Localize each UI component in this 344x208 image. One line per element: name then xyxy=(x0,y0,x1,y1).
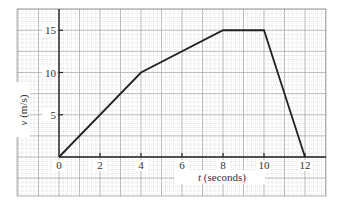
y-tick-label: 10 xyxy=(45,67,57,79)
x-tick-label: 10 xyxy=(259,159,271,171)
x-tick-label: 2 xyxy=(97,159,103,171)
x-axis-variable: t xyxy=(198,171,202,183)
x-tick-label: 4 xyxy=(138,159,144,171)
svg-text:t (seconds): t (seconds) xyxy=(198,171,246,184)
x-tick-label: 8 xyxy=(220,159,226,171)
y-tick-label: 5 xyxy=(51,109,57,121)
x-tick-label: 12 xyxy=(300,159,311,171)
velocity-time-graph: 02468101251015 t (seconds) v (m/s) xyxy=(0,0,344,208)
x-axis-unit: (seconds) xyxy=(204,171,246,184)
axes xyxy=(59,9,326,157)
y-axis-unit: (m/s) xyxy=(17,94,30,118)
svg-text:v (m/s): v (m/s) xyxy=(17,94,30,125)
y-tick-label: 15 xyxy=(45,24,57,36)
y-axis-variable: v xyxy=(17,120,29,125)
x-tick-label: 0 xyxy=(56,159,62,171)
y-axis-title: v (m/s) xyxy=(16,82,30,137)
x-axis-title: t (seconds) xyxy=(175,170,265,184)
x-tick-label: 6 xyxy=(179,159,185,171)
